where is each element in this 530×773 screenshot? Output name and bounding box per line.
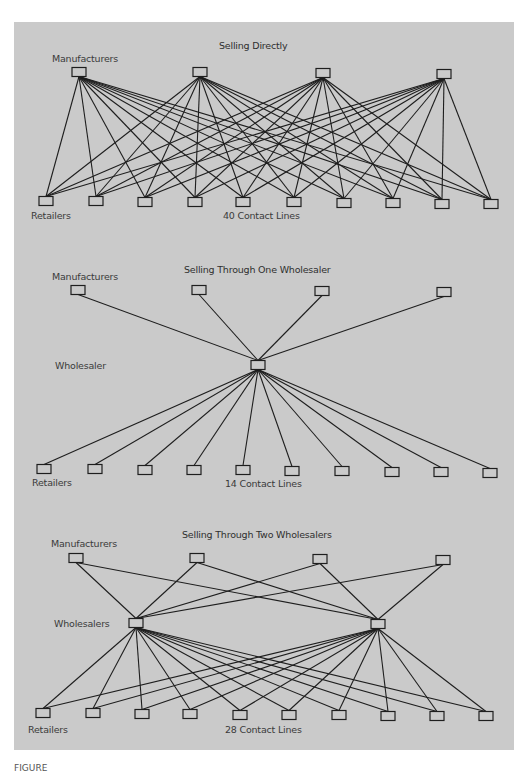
contact-line (442, 79, 444, 200)
retailer-node (36, 709, 50, 718)
contact-line (145, 370, 258, 466)
contact-line (258, 370, 490, 469)
wholesaler-node (371, 620, 385, 629)
contact-line (190, 629, 378, 710)
retailer-node (188, 198, 202, 207)
contact-line (136, 563, 197, 619)
contact-line (136, 628, 289, 711)
contact-line (444, 79, 491, 200)
label-manufacturers: Manufacturers (52, 53, 118, 64)
retailer-node (233, 711, 247, 720)
contact-lines-count: 28 Contact Lines (225, 724, 302, 735)
retailer-node (335, 467, 349, 476)
retailer-node (88, 465, 102, 474)
wholesaler-node (129, 619, 143, 628)
contact-line (258, 370, 441, 468)
contact-line (258, 370, 342, 467)
section-title-selling-directly: Selling Directly (219, 40, 287, 51)
retailer-node (434, 468, 448, 477)
retailer-node (37, 465, 51, 474)
manufacturer-node (316, 69, 330, 78)
retailer-node (484, 200, 498, 209)
retailer-node (236, 198, 250, 207)
contact-line (378, 565, 443, 620)
retailer-node (282, 711, 296, 720)
contact-line (96, 78, 323, 197)
contact-line (136, 628, 437, 712)
contact-line (258, 370, 292, 467)
contact-line (294, 79, 444, 198)
retailer-node (381, 712, 395, 721)
contact-line (46, 77, 79, 197)
contact-line (243, 78, 323, 198)
contact-line (199, 295, 258, 361)
contact-line (43, 629, 378, 709)
retailer-node (479, 712, 493, 721)
manufacturer-node (436, 556, 450, 565)
retailer-node (89, 197, 103, 206)
retailer-node (86, 709, 100, 718)
retailer-node (337, 199, 351, 208)
retailer-node (187, 466, 201, 475)
contact-line (78, 295, 258, 361)
contact-line (243, 370, 258, 466)
manufacturer-node (192, 286, 206, 295)
retailer-node (430, 712, 444, 721)
manufacturer-node (313, 555, 327, 564)
contact-line (76, 563, 136, 619)
contact-line (258, 296, 322, 361)
manufacturer-node (190, 554, 204, 563)
contact-line (96, 79, 444, 197)
contact-line (393, 79, 444, 199)
wholesaler-node (251, 361, 265, 370)
manufacturer-node (69, 554, 83, 563)
retailer-node (435, 200, 449, 209)
manufacturer-node (315, 287, 329, 296)
label-wholesaler: Wholesaler (55, 360, 106, 371)
label-retailers: Retailers (28, 724, 68, 735)
retailer-node (285, 467, 299, 476)
contact-line (142, 629, 378, 710)
contact-line (320, 564, 378, 620)
section-title-one-wholesaler: Selling Through One Wholesaler (184, 264, 331, 275)
contact-lines-count: 14 Contact Lines (225, 478, 302, 489)
label-manufacturers: Manufacturers (51, 538, 117, 549)
retailer-node (135, 710, 149, 719)
manufacturer-node (72, 68, 86, 77)
retailer-node (332, 711, 346, 720)
contact-line (294, 78, 323, 198)
figure-caption: FIGURE (14, 763, 47, 773)
label-wholesalers: Wholesalers (54, 618, 110, 629)
contact-line (93, 628, 136, 709)
label-manufacturers: Manufacturers (52, 271, 118, 282)
retailer-node (386, 199, 400, 208)
retailer-node (138, 198, 152, 207)
contact-line (95, 370, 258, 465)
retailer-node (138, 466, 152, 475)
retailer-node (287, 198, 301, 207)
retailer-node (385, 468, 399, 477)
contact-line (136, 628, 142, 710)
contact-lines-count: 40 Contact Lines (223, 210, 300, 221)
contact-line (258, 297, 444, 361)
retailer-node (483, 469, 497, 478)
label-retailers: Retailers (32, 477, 72, 488)
contact-line (339, 629, 378, 711)
manufacturer-node (71, 286, 85, 295)
retailer-node (39, 197, 53, 206)
manufacturer-node (193, 68, 207, 77)
retailer-node (236, 466, 250, 475)
label-retailers: Retailers (31, 210, 71, 221)
retailer-node (183, 710, 197, 719)
manufacturer-node (437, 288, 451, 297)
contact-line (195, 77, 200, 198)
manufacturer-node (437, 70, 451, 79)
contact-line (76, 563, 378, 620)
section-title-two-wholesalers: Selling Through Two Wholesalers (182, 529, 332, 540)
contact-line (43, 628, 136, 709)
